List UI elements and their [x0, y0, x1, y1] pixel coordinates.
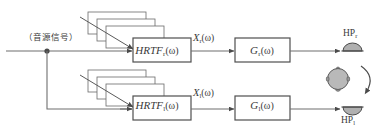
gain-left-arg: (ω) — [260, 100, 273, 111]
hrtf-right-arg: (ω) — [165, 45, 178, 56]
gain-right-name: G — [250, 44, 258, 56]
signal-flow-diagram: （音源信号） HRTFr(ω) HRTFl(ω) Gr(ω) Gl(ω) Xr(… — [0, 0, 378, 134]
x-signal-right-label: Xr(ω) — [193, 33, 214, 44]
headphone-left-label: HPl — [341, 116, 355, 126]
hrtf-box-left-label: HRTFl(ω) — [128, 100, 186, 113]
hp-right-name: HP — [343, 28, 355, 38]
headphone-earpiece-right-icon — [342, 43, 364, 51]
source-signal-label: （音源信号） — [24, 33, 78, 42]
x-left-arg: (ω) — [201, 88, 214, 98]
head-top-view-icon — [326, 67, 349, 91]
hrtf-box-right-label: HRTFr(ω) — [128, 45, 186, 58]
headphone-right-label: HPr — [343, 29, 357, 39]
hrtf-right-name: HRTF — [135, 44, 163, 56]
gain-right-arg: (ω) — [261, 45, 274, 56]
x-signal-left-label: Xl(ω) — [193, 88, 214, 99]
hp-right-subscript: r — [355, 32, 357, 39]
headphone-earpiece-left-icon — [342, 107, 364, 115]
hp-left-name: HP — [341, 115, 353, 125]
x-right-arg: (ω) — [202, 33, 215, 43]
hp-left-subscript: l — [353, 119, 355, 126]
hrtf-left-arg: (ω) — [165, 100, 178, 111]
head-rotation-arrow-icon — [361, 66, 370, 92]
gain-box-right-label: Gr(ω) — [236, 45, 288, 58]
diagram-canvas — [0, 0, 378, 134]
gain-box-left-label: Gl(ω) — [236, 100, 288, 113]
hrtf-left-name: HRTF — [136, 99, 164, 111]
